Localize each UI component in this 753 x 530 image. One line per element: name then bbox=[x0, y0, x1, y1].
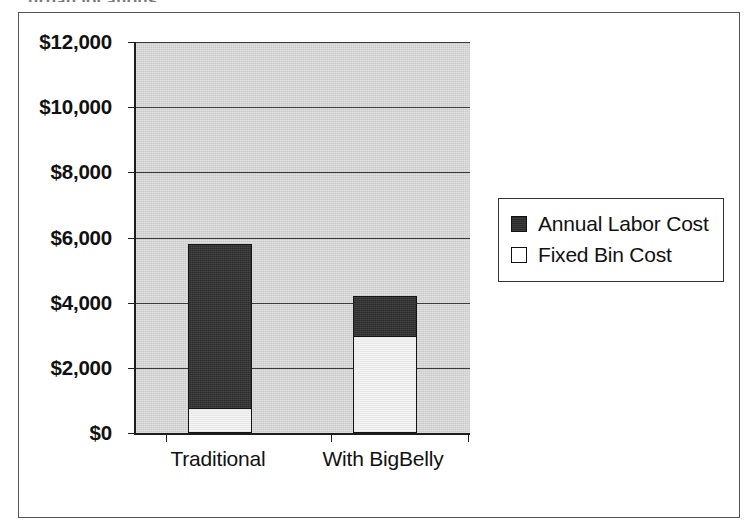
legend-label: Annual Labor Cost bbox=[538, 212, 709, 236]
y-axis-tick-label: $6,000 bbox=[0, 226, 122, 250]
y-axis-tick bbox=[128, 238, 135, 239]
y-axis-labels: $0$2,000$4,000$6,000$8,000$10,000$12,000 bbox=[0, 42, 122, 433]
gridline bbox=[136, 172, 470, 173]
segment-annual-labor-cost[interactable] bbox=[189, 245, 251, 408]
y-axis-tick-label: $10,000 bbox=[0, 95, 122, 119]
x-axis-tick bbox=[468, 433, 469, 442]
x-axis-tick bbox=[166, 433, 167, 442]
chart-legend: Annual Labor CostFixed Bin Cost bbox=[498, 198, 724, 282]
y-axis-tick bbox=[128, 303, 135, 304]
bar-with-bigbelly[interactable] bbox=[353, 296, 417, 433]
bar-traditional[interactable] bbox=[188, 244, 252, 433]
gridline bbox=[136, 303, 470, 304]
stacked-bar-chart: $0$2,000$4,000$6,000$8,000$10,000$12,000… bbox=[0, 0, 753, 530]
y-axis-tick bbox=[128, 433, 135, 434]
segment-annual-labor-cost[interactable] bbox=[354, 297, 416, 336]
x-axis-label-with-bigbelly: With BigBelly bbox=[283, 447, 483, 471]
segment-fixed-bin-cost[interactable] bbox=[189, 408, 251, 432]
y-axis-tick-label: $2,000 bbox=[0, 356, 122, 380]
gridline bbox=[136, 238, 470, 239]
y-axis-tick-label: $8,000 bbox=[0, 160, 122, 184]
y-axis-tick-label: $0 bbox=[0, 421, 122, 445]
y-axis-tick bbox=[128, 42, 135, 43]
gridline bbox=[136, 368, 470, 369]
y-axis-tick bbox=[128, 172, 135, 173]
y-axis-tick-label: $12,000 bbox=[0, 30, 122, 54]
segment-fixed-bin-cost[interactable] bbox=[354, 336, 416, 432]
legend-swatch-dark bbox=[511, 216, 527, 232]
plot-area bbox=[134, 42, 470, 435]
gridline bbox=[136, 107, 470, 108]
y-axis-tick-label: $4,000 bbox=[0, 291, 122, 315]
legend-item-fixed-bin-cost[interactable]: Fixed Bin Cost bbox=[511, 239, 709, 270]
legend-item-annual-labor-cost[interactable]: Annual Labor Cost bbox=[511, 208, 709, 239]
y-axis-tick bbox=[128, 368, 135, 369]
y-axis-tick bbox=[128, 107, 135, 108]
legend-swatch-light bbox=[511, 247, 527, 263]
legend-label: Fixed Bin Cost bbox=[538, 243, 672, 267]
gridline bbox=[136, 42, 470, 43]
x-axis-tick bbox=[331, 433, 332, 442]
